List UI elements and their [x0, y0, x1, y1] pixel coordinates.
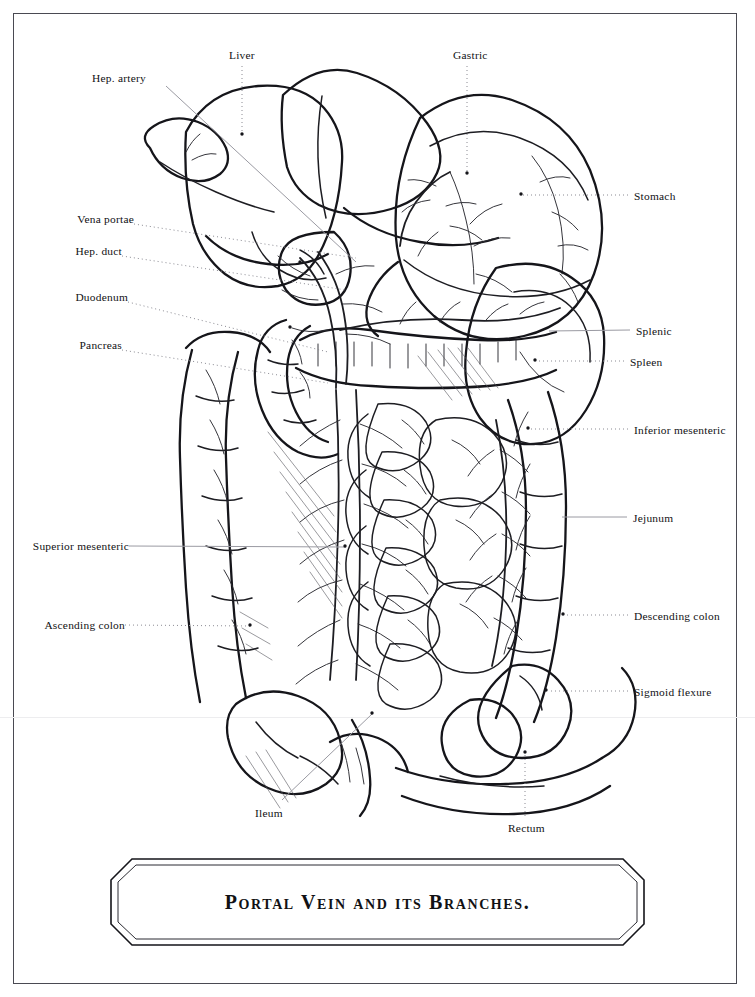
- label-descending-colon: Descending colon: [634, 609, 720, 623]
- leader-anchor-dots: [240, 132, 564, 753]
- label-superior-mesenteric: Superior mesenteric: [19, 539, 129, 553]
- plate-title: Portal Vein and its Branches.: [225, 891, 531, 914]
- label-jejunum: Jejunum: [633, 511, 673, 525]
- label-splenic: Splenic: [636, 324, 672, 338]
- label-hep-artery: Hep. artery: [92, 71, 146, 85]
- label-ascending-colon: Ascending colon: [30, 618, 125, 632]
- anatomical-plate: .o{fill:none;stroke:#15151a;stroke-width…: [0, 0, 755, 997]
- label-gastric: Gastric: [453, 48, 488, 62]
- label-spleen: Spleen: [630, 355, 663, 369]
- label-inferior-mesenteric: Inferior mesenteric: [634, 423, 726, 437]
- label-pancreas: Pancreas: [32, 338, 122, 352]
- caption-cartouche: Portal Vein and its Branches.: [110, 858, 645, 946]
- label-liver: Liver: [229, 48, 255, 62]
- label-duodenum: Duodenum: [28, 290, 128, 304]
- label-sigmoid-flexure: Sigmoid flexure: [634, 685, 711, 699]
- label-ileum: Ileum: [255, 806, 283, 820]
- label-stomach: Stomach: [634, 189, 676, 203]
- label-hep-duct: Hep. duct: [34, 244, 122, 258]
- label-rectum: Rectum: [508, 821, 545, 835]
- label-vena-portae: Vena portae: [34, 212, 134, 226]
